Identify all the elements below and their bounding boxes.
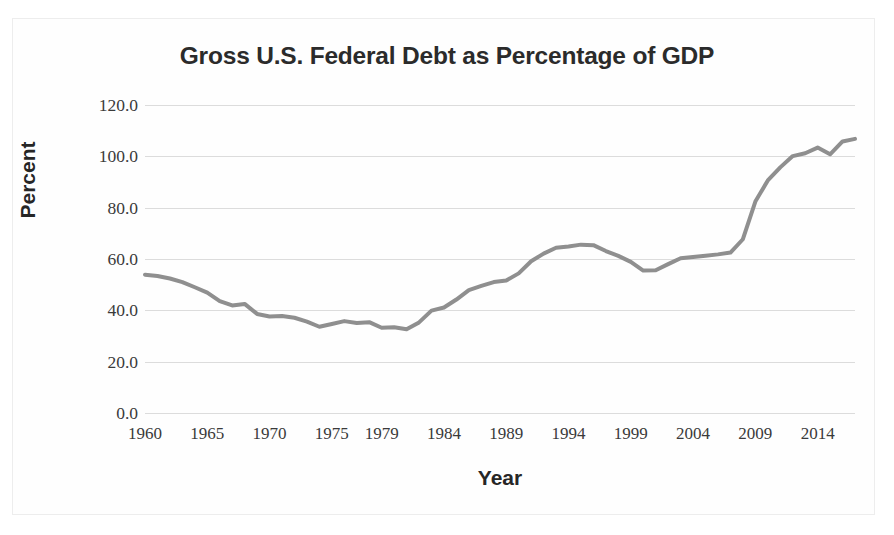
y-axis-tick-label: 40.0 (52, 300, 138, 321)
y-axis-tick-label: 120.0 (52, 95, 138, 116)
x-axis-tick-label: 1999 (614, 424, 648, 444)
x-axis-tick-label: 1975 (315, 424, 349, 444)
y-axis-tick-label: 80.0 (52, 197, 138, 218)
x-axis-tick-label: 1970 (253, 424, 287, 444)
plot-area (145, 105, 855, 413)
chart-title: Gross U.S. Federal Debt as Percentage of… (0, 42, 894, 70)
x-axis-tick-label: 2009 (738, 424, 772, 444)
x-axis-tick-label: 1984 (427, 424, 461, 444)
debt-series-line (145, 105, 855, 413)
x-axis-tick-label: 1960 (128, 424, 162, 444)
y-axis-tick-label: 60.0 (52, 249, 138, 270)
x-axis-tick-label: 2004 (676, 424, 710, 444)
x-axis-tick-label: 1965 (190, 424, 224, 444)
x-axis-tick-label: 1994 (552, 424, 586, 444)
y-axis-tick-labels: 120.0100.080.060.040.020.00.0 (52, 105, 138, 413)
x-axis-tick-label: 2014 (801, 424, 835, 444)
x-axis-tick-labels: 1960196519701975197919841989199419992004… (145, 424, 855, 450)
gridline (145, 413, 855, 414)
y-axis-title: Percent (16, 90, 40, 270)
y-axis-tick-label: 0.0 (52, 403, 138, 424)
x-axis-tick-label: 1979 (365, 424, 399, 444)
y-axis-tick-label: 20.0 (52, 351, 138, 372)
x-axis-tick-label: 1989 (489, 424, 523, 444)
y-axis-tick-label: 100.0 (52, 146, 138, 167)
x-axis-title: Year (145, 466, 855, 490)
chart-figure: Gross U.S. Federal Debt as Percentage of… (0, 0, 894, 535)
